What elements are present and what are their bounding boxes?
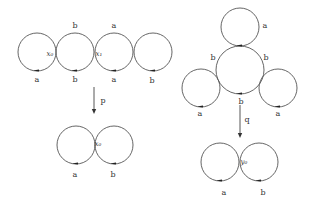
edge-label: b (72, 21, 77, 30)
edge-label: b (110, 170, 115, 179)
loop-circle (56, 33, 94, 71)
edge-label: b (238, 97, 243, 106)
edge-label: b (72, 75, 77, 84)
edge-label: a (222, 188, 227, 197)
vertex-label: x₀ (95, 140, 102, 148)
edge-label: b (210, 53, 215, 62)
covering-space-diagram: abbaabx₀x₁abx₀abbbaaaby₀pq (0, 0, 316, 207)
edge-label: a (73, 170, 78, 179)
diagram-canvas: abbaabx₀x₁abx₀abbbaaaby₀pq (0, 0, 316, 207)
edge-label: b (260, 188, 265, 197)
loops-layer (18, 8, 297, 181)
loop-circle (134, 33, 172, 71)
map-label: q (244, 115, 249, 124)
edge-label: a (263, 21, 268, 30)
labels-layer: abbaabx₀x₁abx₀abbbaaaby₀pq (35, 21, 281, 197)
edge-label: a (112, 21, 117, 30)
loop-circle (201, 143, 239, 181)
map-label: p (100, 96, 105, 105)
arrow-down-icon (238, 133, 242, 138)
edge-label: a (198, 109, 203, 118)
edge-label: b (263, 53, 268, 62)
edge-label: a (112, 75, 117, 84)
loop-circle (182, 69, 220, 107)
loop-circle (57, 126, 95, 164)
vertex-label: y₀ (240, 158, 248, 166)
edge-label: b (149, 76, 154, 85)
arrow-down-icon (92, 109, 96, 114)
vertex-label: x₀ (47, 50, 54, 58)
maps-layer (92, 87, 242, 138)
edge-label: a (276, 109, 281, 118)
loop-circle (221, 8, 259, 46)
loop-circle (216, 46, 264, 94)
vertex-label: x₁ (96, 50, 103, 58)
edge-label: a (35, 75, 40, 84)
loop-circle (259, 69, 297, 107)
